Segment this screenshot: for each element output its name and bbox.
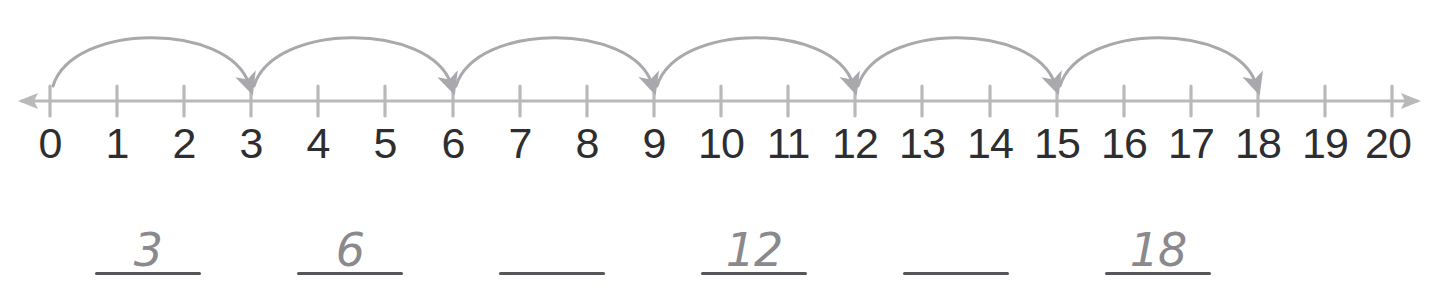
tick-label-8: 8 bbox=[576, 122, 599, 165]
tick-label-14: 14 bbox=[967, 122, 1013, 165]
answer-value-6: 18 bbox=[1105, 227, 1211, 273]
tick-label-6: 6 bbox=[442, 122, 465, 165]
tick-label-0: 0 bbox=[39, 122, 62, 165]
answer-blank-6[interactable]: 18 bbox=[1105, 205, 1211, 275]
tick-label-19: 19 bbox=[1302, 122, 1348, 165]
answer-rule-6 bbox=[1105, 272, 1211, 275]
answer-blank-4[interactable]: 12 bbox=[701, 205, 807, 275]
jump-arc-0-to-3 bbox=[53, 38, 249, 86]
answer-rule-3 bbox=[499, 272, 605, 275]
tick-label-5: 5 bbox=[374, 122, 397, 165]
answer-blank-2[interactable]: 6 bbox=[297, 205, 403, 275]
tick-label-20: 20 bbox=[1365, 122, 1411, 165]
answer-blank-5[interactable] bbox=[903, 205, 1009, 275]
jump-arc-6-to-9 bbox=[456, 38, 652, 86]
answer-rule-4 bbox=[701, 272, 807, 275]
tick-label-15: 15 bbox=[1034, 122, 1080, 165]
tick-label-16: 16 bbox=[1101, 122, 1147, 165]
answer-rule-5 bbox=[903, 272, 1009, 275]
tick-label-3: 3 bbox=[240, 122, 263, 165]
tick-label-11: 11 bbox=[767, 122, 810, 165]
jump-arcs bbox=[53, 38, 1256, 86]
jump-arc-9-to-12 bbox=[657, 38, 853, 86]
tick-label-18: 18 bbox=[1235, 122, 1281, 165]
answer-blank-1[interactable]: 3 bbox=[95, 205, 201, 275]
tick-label-13: 13 bbox=[899, 122, 945, 165]
tick-label-12: 12 bbox=[832, 122, 878, 165]
answer-blank-3[interactable] bbox=[499, 205, 605, 275]
jump-arc-12-to-15 bbox=[858, 38, 1055, 86]
answer-value-4: 12 bbox=[701, 227, 807, 273]
tick-label-17: 17 bbox=[1168, 122, 1214, 165]
tick-label-10: 10 bbox=[698, 122, 744, 165]
tick-label-9: 9 bbox=[643, 122, 666, 165]
jump-arc-15-to-18 bbox=[1060, 38, 1256, 86]
axis-ticks bbox=[50, 86, 1392, 116]
tick-label-1: 1 bbox=[106, 122, 129, 165]
answer-value-2: 6 bbox=[297, 227, 403, 273]
tick-label-4: 4 bbox=[307, 122, 330, 165]
answer-rule-1 bbox=[95, 272, 201, 275]
number-line-worksheet: 0 1 2 3 4 5 6 7 8 9 10 11 12 13 14 15 16… bbox=[0, 0, 1439, 299]
tick-label-7: 7 bbox=[509, 122, 532, 165]
jump-arc-3-to-6 bbox=[254, 38, 451, 86]
tick-label-2: 2 bbox=[173, 122, 196, 165]
answer-value-1: 3 bbox=[95, 227, 201, 273]
answer-rule-2 bbox=[297, 272, 403, 275]
